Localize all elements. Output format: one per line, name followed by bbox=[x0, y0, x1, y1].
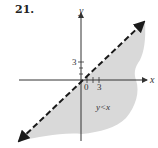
y-tick-label-3: 3 bbox=[72, 57, 77, 67]
origin-label: 0 bbox=[84, 82, 89, 92]
problem-number: 21. bbox=[15, 3, 34, 16]
region-label: y<x bbox=[95, 102, 110, 112]
inequality-graph: 21. y x 3 bbox=[0, 0, 158, 148]
graph-canvas: y x 3 0 3 y<x bbox=[0, 0, 158, 148]
x-axis-label: x bbox=[149, 74, 155, 85]
y-axis-label: y bbox=[78, 5, 84, 16]
x-tick-label-3: 3 bbox=[97, 82, 102, 92]
